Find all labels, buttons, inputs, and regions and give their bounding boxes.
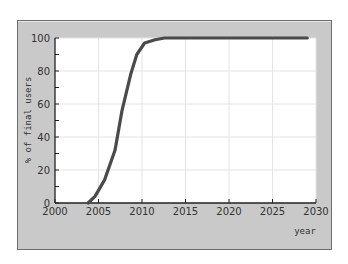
x-axis-label: year xyxy=(294,226,316,236)
x-tick-label: 2005 xyxy=(86,206,111,217)
y-tick-label: 40 xyxy=(37,132,50,143)
x-tick-label: 2025 xyxy=(260,206,285,217)
y-tick-label: 60 xyxy=(37,99,50,110)
y-tick-label: 20 xyxy=(37,165,50,176)
y-tick-label: 0 xyxy=(44,198,50,209)
y-axis-label: % of final users xyxy=(23,77,33,164)
x-tick-label: 2010 xyxy=(129,206,154,217)
y-tick-label: 100 xyxy=(31,33,50,44)
x-tick-label: 2020 xyxy=(216,206,241,217)
y-tick-label: 80 xyxy=(37,66,50,77)
x-tick-label: 2030 xyxy=(303,206,328,217)
x-tick-label: 2015 xyxy=(173,206,198,217)
line-chart: 2000200520102015202020252030 02040608010… xyxy=(0,0,348,264)
